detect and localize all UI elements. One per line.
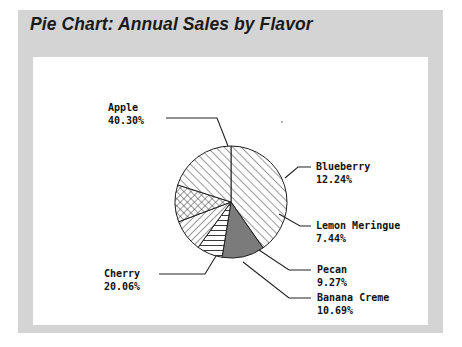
slice-label-banana-creme-percent: 10.69% <box>317 305 389 318</box>
slice-label-blueberry-percent: 12.24% <box>316 174 370 187</box>
slice-label-cherry-name: Cherry <box>104 268 140 281</box>
plot-panel <box>33 57 428 325</box>
slice-label-pecan: Pecan 9.27% <box>317 264 347 289</box>
slice-label-blueberry-name: Blueberry <box>316 161 370 174</box>
slice-label-banana-creme: Banana Creme 10.69% <box>317 292 389 317</box>
pie-chart-figure: Pie Chart: Annual Sales by Flavor <box>0 0 462 347</box>
noise-speck <box>281 121 283 123</box>
slice-label-pecan-percent: 9.27% <box>317 277 347 290</box>
slice-label-lemon-meringue-name: Lemon Meringue <box>316 220 400 233</box>
slice-label-banana-creme-name: Banana Creme <box>317 292 389 305</box>
slice-label-lemon-meringue-percent: 7.44% <box>316 233 400 246</box>
slice-label-blueberry: Blueberry 12.24% <box>316 161 370 186</box>
slice-label-cherry: Cherry 20.06% <box>104 268 140 293</box>
slice-label-cherry-percent: 20.06% <box>104 281 140 294</box>
slice-label-pecan-name: Pecan <box>317 264 347 277</box>
slice-label-apple-name: Apple <box>108 102 144 115</box>
slice-label-lemon-meringue: Lemon Meringue 7.44% <box>316 220 400 245</box>
page-title: Pie Chart: Annual Sales by Flavor <box>30 14 313 35</box>
slice-label-apple: Apple 40.30% <box>108 102 144 127</box>
slice-label-apple-percent: 40.30% <box>108 115 144 128</box>
